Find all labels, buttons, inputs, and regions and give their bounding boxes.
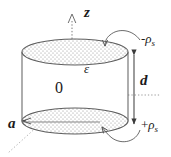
bottom-plate: [22, 108, 128, 134]
bottom-surface-charge-subscript: s: [155, 124, 159, 134]
top-plate-ellipse: [22, 39, 128, 65]
top-surface-charge-subscript: s: [152, 38, 156, 48]
permittivity-label: ε: [84, 62, 89, 75]
bottom-surface-charge-label: +ρs: [141, 118, 158, 134]
bottom-plate-ellipse: [22, 108, 128, 134]
z-axis-label: z: [84, 5, 90, 20]
height-label: d: [140, 73, 148, 88]
radius-label: a: [8, 116, 16, 131]
origin-label: 0: [55, 80, 63, 96]
cylindrical-capacitor-figure: z 0 ε d a -ρs +ρs: [0, 0, 171, 157]
top-plate: [22, 39, 128, 65]
top-surface-charge-label: -ρs: [141, 32, 155, 48]
